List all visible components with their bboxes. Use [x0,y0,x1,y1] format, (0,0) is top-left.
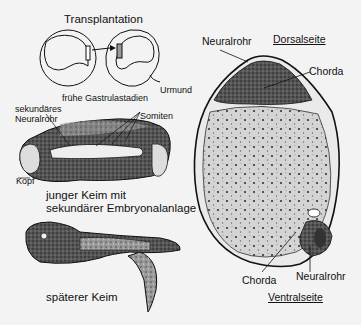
secondary-neural-tube-label-2: Neuralrohr [15,115,58,124]
young-embryo-caption-2: sekundärer Embryonalanlage [46,203,196,215]
gastrula-donor [40,30,96,86]
gastrula-caption: frühe Gastrulastadien [62,94,148,103]
transplant-arrow [92,45,116,51]
chorda-top-label: Chorda [309,66,343,77]
later-embryo-caption: späterer Keim [46,292,118,304]
urmund-label: Urmund [160,86,192,95]
secondary-neural-tube-label-1: sekundäres [15,105,62,114]
young-embryo-caption-1: junger Keim mit [46,190,126,202]
gastrula-host [106,30,160,86]
neural-tube-top-label: Neuralrohr [202,36,252,47]
transplant-title: Transplantation [64,14,143,26]
ventral-side-label: Ventralseite [268,292,323,303]
dorsal-side-label: Dorsalseite [273,34,326,45]
somites-label: Somiten [140,112,173,121]
cross-section-drawing [194,56,339,267]
chorda-bottom-label: Chorda [242,275,276,286]
neural-tube-bottom-label: Neuralrohr [296,271,346,282]
head-label: Kopf [16,177,35,186]
